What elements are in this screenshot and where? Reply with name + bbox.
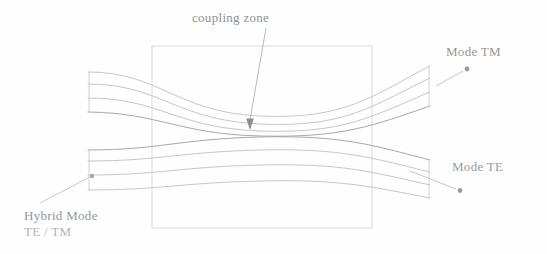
hybrid-mode-label-line2: TE / TM	[24, 224, 98, 240]
mode-tm-arrow-head	[465, 67, 470, 72]
mode-tm-label: Mode TM	[446, 44, 501, 60]
hybrid-mode-label-line1: Hybrid Mode	[24, 208, 98, 223]
coupling-zone-label: coupling zone	[192, 10, 269, 26]
mode-te-label: Mode TE	[452, 159, 503, 175]
mode-te-arrow-head	[458, 188, 463, 193]
hybrid-mode-label: Hybrid ModeTE / TM	[24, 208, 98, 241]
hybrid-mode-arrow-head	[90, 174, 94, 178]
